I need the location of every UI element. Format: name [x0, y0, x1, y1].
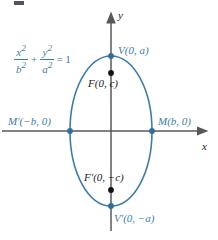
- point-covertex-right: [149, 128, 155, 134]
- label-vertex-bottom: V′(0, −a): [114, 213, 154, 224]
- equation-equals-one: = 1: [56, 53, 70, 65]
- label-vertex-top: V(0, a): [118, 45, 149, 56]
- point-vertex-bottom: [108, 203, 114, 209]
- ellipse-figure: x2 b2 + y2 a2 = 1 y x V(0, a) F(0, c) M′…: [0, 0, 218, 240]
- label-focus-bottom: F′(0, −c): [84, 172, 124, 183]
- ellipse-equation: x2 b2 + y2 a2 = 1: [14, 44, 71, 74]
- equation-a-denominator-exponent: 2: [48, 60, 53, 70]
- label-covertex-left: M′(−b, 0): [8, 116, 51, 127]
- y-axis-label: y: [118, 10, 123, 21]
- equation-x-numerator-exponent: 2: [21, 43, 26, 53]
- equation-fraction-y: y2 a2: [40, 44, 54, 74]
- point-focus-bottom: [108, 187, 114, 193]
- equation-operator: +: [30, 53, 38, 65]
- label-focus-top: F(0, c): [88, 78, 118, 89]
- point-vertex-top: [108, 53, 114, 59]
- label-covertex-right: M(b, 0): [158, 116, 191, 127]
- equation-fraction-x: x2 b2: [14, 44, 28, 74]
- equation-b-denominator-exponent: 2: [22, 60, 27, 70]
- point-focus-top: [108, 70, 114, 76]
- x-axis-label: x: [202, 141, 207, 152]
- point-covertex-left: [67, 128, 73, 134]
- equation-y-numerator-exponent: 2: [47, 43, 52, 53]
